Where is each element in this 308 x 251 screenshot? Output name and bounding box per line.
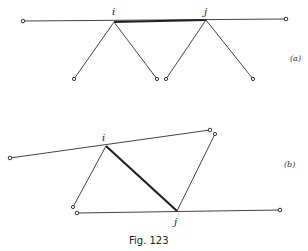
- panel-a-leg-end-3: [164, 77, 167, 80]
- panel-b-lower-left-end: [75, 211, 79, 215]
- panel-b-node-i-label: i: [102, 132, 105, 143]
- panel-a-endpoint-right: [284, 17, 288, 21]
- panel-b-leg-j-end: [213, 132, 216, 135]
- panel-a-node-i-label: i: [112, 6, 115, 17]
- panel-b: i j (b): [8, 128, 295, 227]
- panel-a-label: (a): [290, 54, 301, 63]
- panel-b-edge-ij: [106, 146, 177, 211]
- panel-a-leg-end-2: [155, 77, 158, 80]
- panel-b-leg-j: [177, 134, 215, 211]
- panel-b-lower-line: [77, 210, 280, 213]
- panel-b-leg-i: [73, 146, 106, 207]
- panel-a-leg-j-left: [166, 20, 206, 79]
- panel-b-leg-i-end: [71, 205, 74, 208]
- figure-caption: Fig. 123: [129, 235, 169, 246]
- panel-b-lower-right-end: [278, 208, 282, 212]
- figure-123: i j (a) i j (b) Fig. 123: [0, 0, 308, 251]
- panel-b-upper-right-end: [208, 128, 212, 132]
- panel-a-leg-end-4: [251, 77, 254, 80]
- panel-a-node-j-label: j: [202, 6, 207, 17]
- panel-a-leg-end-1: [72, 77, 75, 80]
- panel-a-leg-i-left: [74, 22, 114, 79]
- panel-b-node-j-label: j: [172, 216, 177, 227]
- panel-b-upper-left-end: [8, 156, 12, 160]
- panel-a-leg-j-right: [206, 20, 253, 79]
- panel-b-label: (b): [284, 160, 295, 169]
- panel-a-endpoint-left: [21, 19, 25, 23]
- panel-a: i j (a): [21, 6, 301, 81]
- panel-b-upper-line: [10, 130, 210, 158]
- panel-a-leg-i-right: [114, 22, 157, 79]
